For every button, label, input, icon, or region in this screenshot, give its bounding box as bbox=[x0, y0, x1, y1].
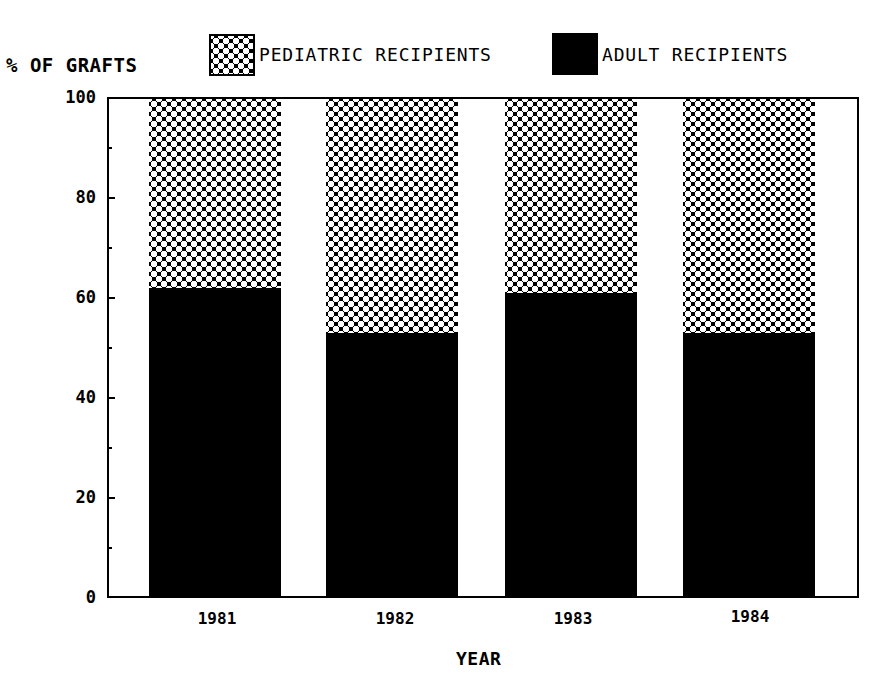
segment-adult-1981 bbox=[149, 288, 281, 596]
xtick-label-1983: 1983 bbox=[533, 609, 613, 628]
bar-1984 bbox=[683, 99, 815, 596]
ytick-label: 80 bbox=[56, 187, 96, 207]
bar-1982 bbox=[326, 99, 458, 596]
ytick-label: 40 bbox=[56, 387, 96, 407]
ytick-label: 100 bbox=[56, 87, 96, 107]
y-axis-title: % OF GRAFTS bbox=[6, 54, 137, 76]
y-tick-minor bbox=[107, 547, 112, 549]
segment-pediatric-1982 bbox=[326, 99, 458, 333]
legend-swatch-adult bbox=[552, 33, 598, 75]
plot-area bbox=[107, 97, 859, 598]
y-tick-minor bbox=[107, 447, 112, 449]
segment-pediatric-1983 bbox=[505, 99, 637, 293]
y-tick-major bbox=[107, 197, 115, 199]
ytick-label: 20 bbox=[56, 487, 96, 507]
y-tick-major bbox=[107, 397, 115, 399]
bar-1983 bbox=[505, 99, 637, 596]
ytick-label: 60 bbox=[56, 287, 96, 307]
segment-pediatric-1981 bbox=[149, 99, 281, 288]
y-tick-major bbox=[107, 497, 115, 499]
legend-label-pediatric: PEDIATRIC RECIPIENTS bbox=[259, 44, 492, 65]
x-axis-title: YEAR bbox=[456, 648, 501, 669]
segment-adult-1982 bbox=[326, 333, 458, 596]
legend-swatch-pediatric bbox=[209, 34, 255, 76]
y-tick-minor bbox=[107, 247, 112, 249]
segment-pediatric-1984 bbox=[683, 99, 815, 333]
xtick-label-1981: 1981 bbox=[177, 609, 257, 628]
xtick-label-1984: 1984 bbox=[710, 607, 790, 626]
bar-1981 bbox=[149, 99, 281, 596]
segment-adult-1983 bbox=[505, 293, 637, 596]
ytick-label: 0 bbox=[56, 587, 96, 607]
y-tick-minor bbox=[107, 347, 112, 349]
y-tick-minor bbox=[107, 147, 112, 149]
xtick-label-1982: 1982 bbox=[355, 609, 435, 628]
y-tick-major bbox=[107, 297, 115, 299]
legend-label-adult: ADULT RECIPIENTS bbox=[602, 44, 788, 65]
segment-adult-1984 bbox=[683, 333, 815, 596]
